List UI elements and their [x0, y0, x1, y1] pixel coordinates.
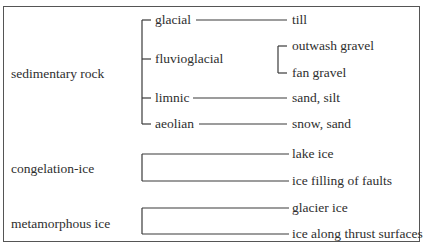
result-lake-ice: lake ice	[292, 147, 334, 161]
result-snow-sand: snow, sand	[292, 117, 351, 131]
result-ice-filling-of-faults: ice filling of faults	[292, 174, 392, 188]
connector-lines	[0, 0, 425, 246]
category-metamorphous-ice: metamorphous ice	[11, 217, 110, 231]
result-outwash-gravel: outwash gravel	[292, 39, 374, 53]
result-sand-silt: sand, silt	[292, 91, 340, 105]
branch-limnic: limnic	[155, 91, 190, 105]
branch-glacial: glacial	[155, 13, 191, 27]
branch-aeolian: aeolian	[155, 117, 194, 131]
category-congelation-ice: congelation-ice	[11, 162, 94, 176]
result-till: till	[292, 13, 307, 27]
result-ice-along-thrust-surfaces: ice along thrust surfaces	[292, 227, 423, 241]
category-sedimentary-rock: sedimentary rock	[11, 67, 104, 81]
branch-fluvioglacial: fluvioglacial	[155, 52, 223, 66]
result-glacier-ice: glacier ice	[292, 201, 348, 215]
result-fan-gravel: fan gravel	[292, 66, 346, 80]
